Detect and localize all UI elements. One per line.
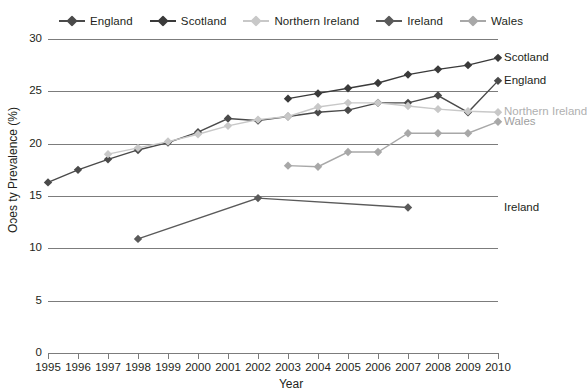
data-point-marker	[494, 117, 502, 125]
data-point-marker	[104, 150, 112, 158]
data-point-marker	[344, 106, 352, 114]
data-point-marker	[344, 99, 352, 107]
data-point-marker	[164, 137, 172, 145]
series-scotland	[284, 54, 502, 103]
data-point-marker	[254, 194, 262, 202]
series-line	[48, 81, 498, 183]
data-point-marker	[254, 115, 262, 123]
end-label-scotland: Scotland	[504, 51, 549, 63]
data-point-marker	[374, 148, 382, 156]
data-point-marker	[344, 84, 352, 92]
x-axis-title: Year	[0, 377, 582, 391]
data-point-marker	[74, 166, 82, 174]
data-point-marker	[404, 203, 412, 211]
data-point-marker	[404, 129, 412, 137]
data-point-marker	[314, 103, 322, 111]
data-point-marker	[434, 105, 442, 113]
data-point-marker	[434, 91, 442, 99]
data-point-marker	[284, 112, 292, 120]
data-point-marker	[314, 162, 322, 170]
series-england	[44, 77, 502, 187]
data-point-marker	[284, 94, 292, 102]
data-point-marker	[494, 54, 502, 62]
series-line	[288, 122, 498, 167]
data-point-marker	[464, 61, 472, 69]
data-point-marker	[494, 108, 502, 116]
data-point-marker	[224, 122, 232, 130]
data-point-marker	[464, 129, 472, 137]
data-point-marker	[374, 79, 382, 87]
data-point-marker	[224, 114, 232, 122]
data-point-marker	[344, 148, 352, 156]
y-axis-title: Oɔes ty Prevalence (%)	[6, 13, 20, 327]
data-point-marker	[134, 235, 142, 243]
data-point-marker	[44, 178, 52, 186]
end-label-england: England	[504, 74, 546, 86]
end-label-ireland: Ireland	[504, 201, 539, 213]
series-ireland	[134, 194, 412, 243]
series-wales	[284, 117, 502, 170]
series-northern-ireland	[104, 99, 502, 159]
data-point-marker	[434, 65, 442, 73]
data-point-marker	[404, 70, 412, 78]
data-point-marker	[374, 99, 382, 107]
end-label-wales: Wales	[504, 115, 536, 127]
series-line	[138, 198, 408, 239]
data-point-marker	[284, 161, 292, 169]
data-point-marker	[434, 129, 442, 137]
data-point-marker	[314, 89, 322, 97]
